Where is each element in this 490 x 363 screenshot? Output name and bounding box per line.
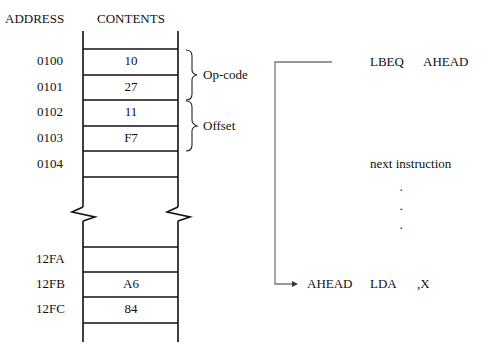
target-operand: ,X xyxy=(417,277,430,291)
ellipsis-dot: · xyxy=(399,221,403,235)
address-header: ADDRESS xyxy=(5,12,64,26)
memory-cell: 11 xyxy=(84,105,178,119)
arrowhead-icon xyxy=(292,281,298,287)
opcode-brace-icon xyxy=(186,50,197,100)
offset-label: Offset xyxy=(203,119,235,133)
address-label: 12FA xyxy=(36,252,96,266)
address-label: 0104 xyxy=(37,157,97,171)
opcode-label: Op-code xyxy=(203,68,248,82)
target-label: AHEAD xyxy=(307,277,353,291)
offset-brace-icon xyxy=(186,101,197,151)
branch-mnemonic: LBEQ xyxy=(370,55,404,69)
next-instruction: next instruction xyxy=(370,157,451,171)
memory-cell: 84 xyxy=(84,302,178,316)
target-mnemonic: LDA xyxy=(370,277,397,291)
memory-cell: A6 xyxy=(84,277,178,291)
ellipsis-dot: · xyxy=(399,183,403,197)
contents-header: CONTENTS xyxy=(97,12,165,26)
ellipsis-dot: · xyxy=(399,202,403,216)
memory-cell: 10 xyxy=(84,54,178,68)
branch-arrow-icon xyxy=(275,62,332,284)
branch-operand: AHEAD xyxy=(423,55,469,69)
brace-icons xyxy=(186,50,197,151)
memory-column-outline xyxy=(72,31,190,342)
memory-cell: F7 xyxy=(84,131,178,145)
memory-cell: 27 xyxy=(84,80,178,94)
